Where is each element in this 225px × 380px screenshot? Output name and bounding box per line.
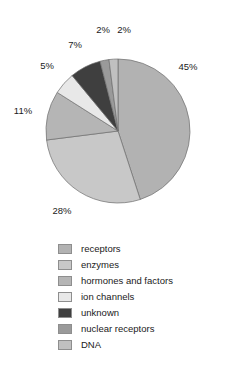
pie-slice-group [46, 59, 190, 203]
legend-color-swatch [58, 260, 72, 270]
pie-slice-value-label: 11% [14, 105, 33, 116]
legend-item[interactable]: enzymes [58, 257, 218, 273]
pie-slice-value-label: 28% [52, 205, 72, 216]
pie-slice-value-label: 45% [178, 61, 198, 72]
legend-item[interactable]: receptors [58, 241, 218, 257]
legend-item-label: hormones and factors [81, 276, 173, 286]
pie-chart-svg: 45%28%11%5%7%2%2% [0, 0, 225, 240]
pie-plot-area: 45%28%11%5%7%2%2% [0, 0, 225, 240]
pie-chart-figure: 45%28%11%5%7%2%2% receptorsenzymeshormon… [0, 0, 225, 380]
pie-slice-value-label: 5% [40, 60, 54, 71]
legend-color-swatch [58, 340, 72, 350]
pie-slice-value-label: 2% [96, 24, 110, 35]
legend-item[interactable]: ion channels [58, 289, 218, 305]
chart-legend: receptorsenzymeshormones and factorsion … [58, 241, 218, 353]
legend-color-swatch [58, 292, 72, 302]
legend-color-swatch [58, 308, 72, 318]
legend-item-label: DNA [81, 340, 101, 350]
legend-color-swatch [58, 276, 72, 286]
legend-item[interactable]: nuclear receptors [58, 321, 218, 337]
legend-item-label: nuclear receptors [81, 324, 154, 334]
pie-slice-value-label: 7% [68, 39, 82, 50]
legend-item[interactable]: hormones and factors [58, 273, 218, 289]
legend-item[interactable]: DNA [58, 337, 218, 353]
legend-item[interactable]: unknown [58, 305, 218, 321]
legend-item-label: enzymes [81, 260, 119, 270]
legend-item-label: ion channels [81, 292, 134, 302]
legend-color-swatch [58, 244, 72, 254]
legend-item-label: receptors [81, 244, 121, 254]
pie-slice-value-label: 2% [117, 24, 131, 35]
legend-item-label: unknown [81, 308, 119, 318]
legend-color-swatch [58, 324, 72, 334]
